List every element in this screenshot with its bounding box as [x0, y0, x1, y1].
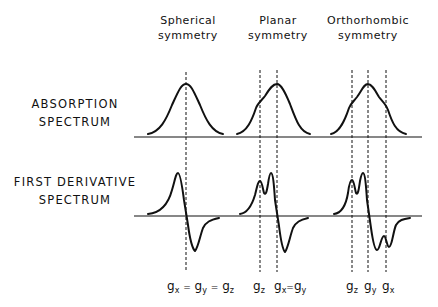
g-subscript: y: [202, 286, 207, 295]
g-label-planar-gxgy: gx=gy: [274, 279, 306, 295]
equals-sign: =: [183, 282, 191, 292]
derivative-orthorhombic-curve: [334, 173, 410, 250]
g-symbol: g: [294, 279, 302, 293]
g-value-dashed-lines: [186, 70, 386, 272]
g-subscript: y: [372, 286, 377, 295]
absorption-planar-curve: [237, 84, 310, 134]
g-symbol: g: [253, 279, 261, 293]
epr-symmetry-diagram: Spherical symmetry Planar symmetry Ortho…: [0, 0, 438, 307]
g-symbol: g: [274, 279, 282, 293]
g-subscript: z: [354, 286, 358, 295]
equals-sign: =: [286, 282, 294, 292]
derivative-planar-curve: [240, 173, 308, 252]
g-subscript: x: [175, 286, 180, 295]
g-label-planar-gz: gz: [253, 279, 265, 295]
g-label-ortho-gx: gx: [382, 279, 394, 295]
g-symbol: g: [167, 279, 175, 293]
baselines: [134, 137, 422, 216]
g-symbol: g: [346, 279, 354, 293]
g-label-ortho-gz: gz: [346, 279, 358, 295]
spectra-plot: [0, 0, 438, 307]
g-symbol: g: [382, 279, 390, 293]
g-subscript: x: [390, 286, 395, 295]
g-subscript: z: [261, 286, 265, 295]
g-label-spherical: gx = gy = gz: [167, 279, 234, 295]
g-label-ortho-gy: gy: [364, 279, 376, 295]
derivative-spherical-curve: [148, 173, 219, 251]
g-symbol: g: [364, 279, 372, 293]
equals-sign: =: [211, 282, 219, 292]
g-symbol: g: [222, 279, 230, 293]
g-subscript: z: [230, 286, 234, 295]
g-subscript: y: [302, 286, 307, 295]
